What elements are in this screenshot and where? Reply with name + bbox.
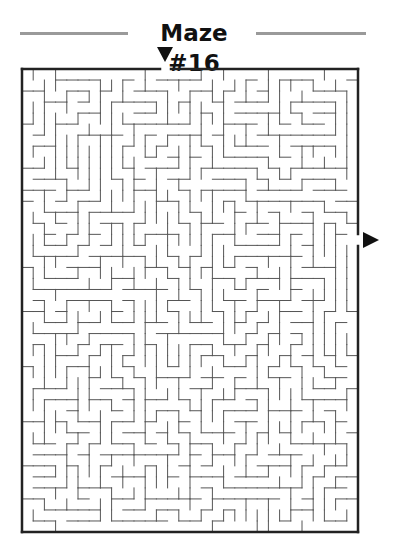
maze-grid[interactable]: [0, 0, 397, 550]
